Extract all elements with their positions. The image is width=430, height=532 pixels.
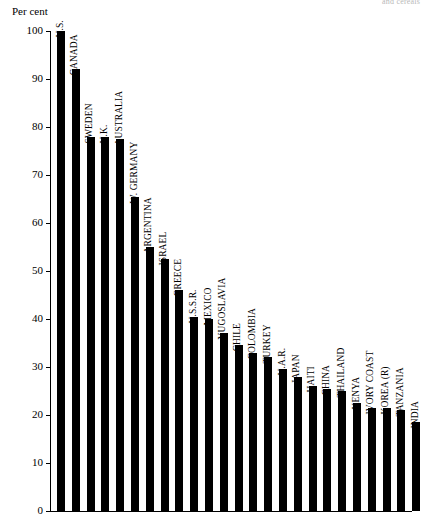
bar-category-label: KENYA [351, 377, 361, 410]
y-tick-mark [46, 127, 51, 128]
bar [309, 386, 317, 511]
bar-category-label: U.S. [55, 20, 65, 37]
y-tick-mark [46, 79, 51, 80]
y-tick-label: 30 [17, 361, 43, 372]
bar [87, 137, 95, 511]
bar-category-label: U.A.R. [277, 348, 287, 376]
bar [220, 333, 228, 511]
bar-category-label: INDIA [410, 401, 420, 428]
bar-category-label: COLOMBIA [247, 308, 257, 359]
y-tick-mark [46, 319, 51, 320]
y-tick-label: 20 [17, 409, 43, 420]
bar-category-label: MEXICO [203, 287, 213, 325]
bar-category-label: HAITI [307, 366, 317, 392]
y-tick-label: 0 [17, 505, 43, 516]
bar [131, 197, 139, 511]
bar [368, 408, 376, 511]
bar-category-label: YUGOSLAVIA [218, 278, 228, 340]
bar [279, 369, 287, 511]
bar-category-label: ARGENTINA [144, 197, 154, 253]
bar-category-label: THAILAND [336, 348, 346, 398]
bar [323, 389, 331, 511]
y-tick-label: 60 [17, 217, 43, 228]
x-axis-line [50, 511, 412, 512]
y-tick-mark [46, 511, 51, 512]
bar [235, 345, 243, 511]
bar [383, 408, 391, 511]
bar-category-label: CHINA [321, 365, 331, 396]
y-tick-mark [46, 367, 51, 368]
y-tick-label: 10 [17, 457, 43, 468]
bar [205, 319, 213, 511]
bar [116, 139, 124, 511]
bar-category-label: KOREA (R) [381, 366, 391, 414]
bar [72, 69, 80, 511]
bar [397, 410, 405, 511]
bar-category-label: TANZANIA [395, 368, 405, 417]
bar [249, 353, 257, 511]
bar-category-label: U.S.S.R. [188, 289, 198, 323]
bar [175, 290, 183, 511]
bar-category-label: GREECE [173, 259, 183, 297]
bar-category-label: IVORY COAST [366, 350, 376, 414]
y-tick-mark [46, 223, 51, 224]
bar-category-label: CANADA [70, 35, 80, 76]
bar [101, 137, 109, 511]
bar-category-label: JAPAN [292, 354, 302, 383]
bar [294, 377, 302, 511]
bar-chart: and cereals Per cent 0102030405060708090… [0, 0, 430, 532]
y-tick-label: 90 [17, 73, 43, 84]
bar [412, 422, 420, 511]
y-tick-mark [46, 463, 51, 464]
bar [338, 391, 346, 511]
bar [264, 357, 272, 511]
y-tick-label: 40 [17, 313, 43, 324]
y-tick-label: 50 [17, 265, 43, 276]
bar [161, 259, 169, 511]
bar [353, 403, 361, 511]
y-tick-label: 70 [17, 169, 43, 180]
y-tick-label: 80 [17, 121, 43, 132]
y-tick-mark [46, 31, 51, 32]
bar-category-label: SWEDEN [85, 103, 95, 143]
bar [57, 31, 65, 511]
bar-category-label: U.K. [99, 124, 109, 143]
y-tick-mark [46, 415, 51, 416]
bar [146, 247, 154, 511]
y-tick-mark [46, 271, 51, 272]
bar [190, 317, 198, 511]
bar-category-label: CHILE [233, 323, 243, 351]
bar-category-label: ISRAEL [159, 232, 169, 266]
bar-category-label: AUSTRALIA [114, 91, 124, 146]
y-tick-label: 100 [17, 25, 43, 36]
bar-category-label: W. GERMANY [129, 141, 139, 203]
y-tick-mark [46, 175, 51, 176]
bar-category-label: TURKEY [262, 325, 272, 364]
plot-area: 0102030405060708090100 U.S.CANADASWEDENU… [0, 0, 430, 532]
